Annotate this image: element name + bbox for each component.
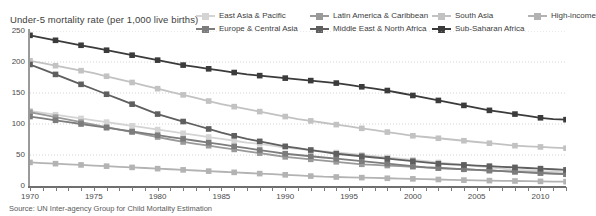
x-axis-line	[28, 186, 566, 188]
series-marker	[461, 162, 467, 168]
series-marker	[206, 126, 212, 132]
series-marker	[206, 98, 212, 104]
series-marker	[155, 57, 161, 63]
series-marker	[308, 153, 314, 159]
x-tick	[145, 187, 146, 191]
x-tick	[183, 187, 184, 191]
legend-label: South Asia	[455, 10, 493, 22]
series-marker	[104, 47, 110, 53]
series-marker	[231, 170, 237, 176]
x-tick-label: 2010	[532, 192, 550, 201]
series-marker	[385, 129, 391, 135]
x-tick	[566, 187, 567, 191]
series-marker	[282, 172, 288, 178]
chart-title: Under-5 mortality rate (per 1,000 live b…	[10, 14, 198, 25]
x-tick-label: 2005	[468, 192, 486, 201]
series-marker	[461, 177, 467, 183]
legend-item-latin-america-caribbean[interactable]: Latin America & Caribbean	[310, 10, 428, 22]
series-high-income	[30, 160, 566, 185]
x-tick	[285, 187, 286, 191]
x-tick	[387, 187, 388, 191]
series-marker	[30, 33, 33, 39]
series-marker	[180, 92, 186, 98]
legend-label: Latin America & Caribbean	[333, 10, 428, 22]
series-marker	[155, 86, 161, 92]
series-marker	[282, 75, 288, 81]
series-south-asia	[30, 58, 566, 151]
series-marker	[282, 151, 288, 157]
x-tick	[413, 187, 414, 191]
y-axis-labels: 050100150200250	[0, 0, 25, 216]
series-marker	[257, 73, 263, 79]
series-marker	[359, 175, 365, 181]
x-tick	[196, 187, 197, 191]
legend-item-south-asia[interactable]: South Asia	[432, 10, 493, 22]
series-marker	[104, 125, 110, 131]
series-marker	[512, 178, 518, 184]
series-marker	[410, 176, 416, 182]
x-tick-label: 1975	[85, 192, 103, 201]
x-tick	[272, 187, 273, 191]
x-tick	[489, 187, 490, 191]
legend-item-high-income[interactable]: High-income	[528, 10, 596, 22]
x-tick	[426, 187, 427, 191]
x-tick	[477, 187, 478, 191]
series-marker	[359, 153, 365, 159]
series-marker	[257, 139, 263, 145]
x-tick	[119, 187, 120, 191]
x-tick-label: 1980	[149, 192, 167, 201]
source-note: Source: UN Inter-agency Group for Child …	[9, 204, 212, 213]
series-marker	[461, 138, 467, 144]
series-marker	[231, 133, 237, 139]
series-marker	[206, 66, 212, 72]
x-tick	[158, 187, 159, 191]
series-marker	[563, 167, 566, 173]
series-marker	[308, 147, 314, 153]
series-marker	[487, 108, 493, 114]
series-marker	[180, 167, 186, 173]
x-tick	[132, 187, 133, 191]
series-line	[30, 64, 566, 169]
series-marker	[78, 82, 84, 88]
series-marker	[78, 162, 84, 168]
series-marker	[282, 144, 288, 150]
series-marker	[538, 166, 544, 172]
series-marker	[461, 103, 467, 109]
series-marker	[538, 115, 544, 121]
y-tick-label: 250	[1, 27, 25, 35]
x-tick-label: 1985	[213, 192, 231, 201]
series-marker	[104, 119, 110, 125]
series-marker	[538, 144, 544, 150]
x-tick	[375, 187, 376, 191]
series-marker	[385, 156, 391, 162]
legend-label: High-income	[551, 10, 596, 22]
series-marker	[129, 123, 135, 129]
legend-swatch-icon	[528, 12, 547, 21]
series-marker	[231, 144, 237, 150]
series-marker	[206, 140, 212, 146]
series-marker	[333, 151, 339, 157]
series-marker	[257, 109, 263, 115]
legend-item-east-asia-pacific[interactable]: East Asia & Pacific	[196, 10, 286, 22]
series-marker	[30, 62, 33, 68]
y-tick-label: 50	[1, 151, 25, 159]
x-tick	[400, 187, 401, 191]
x-tick-label: 1995	[340, 192, 358, 201]
series-marker	[180, 136, 186, 142]
legend-row: East Asia & PacificLatin America & Carib…	[196, 10, 570, 22]
y-tick-label: 200	[1, 58, 25, 66]
series-marker	[436, 177, 442, 183]
series-marker	[257, 147, 263, 153]
x-tick	[209, 187, 210, 191]
series-marker	[231, 70, 237, 76]
series-marker	[359, 84, 365, 90]
series-marker	[487, 163, 493, 169]
series-marker	[512, 143, 518, 149]
series-marker	[78, 68, 84, 74]
series-marker	[155, 132, 161, 138]
series-marker	[30, 160, 33, 166]
series-marker	[487, 140, 493, 146]
series-marker	[155, 111, 161, 117]
x-tick	[336, 187, 337, 191]
